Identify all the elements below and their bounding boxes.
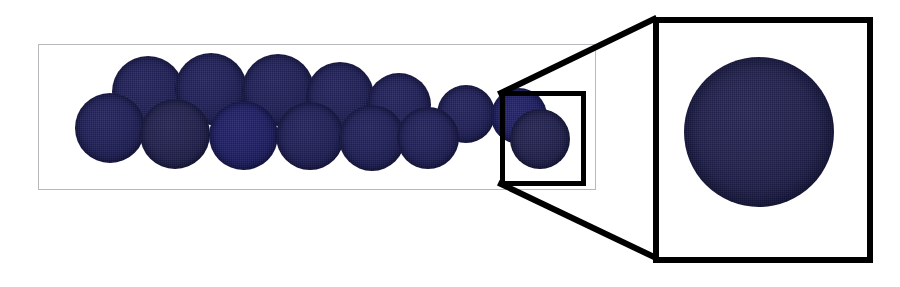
particle-p-magnified (684, 57, 834, 207)
particle-p03 (140, 99, 210, 169)
figure-root (0, 0, 900, 287)
particle-p05 (209, 101, 278, 170)
particle-p01 (75, 93, 145, 163)
magnified-inset-panel (653, 17, 873, 263)
particle-p09 (339, 105, 405, 171)
particle-p07 (276, 102, 344, 170)
roi-selection-box[interactable] (500, 91, 586, 186)
particle-p11 (397, 107, 459, 169)
callout-lower-line (501, 184, 654, 257)
